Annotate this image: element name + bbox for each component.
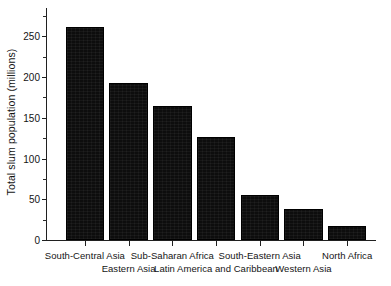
y-tick-mark [42,199,47,200]
y-minor-tick-mark [43,179,47,180]
y-tick-mark [42,77,47,78]
y-minor-tick-mark [43,97,47,98]
y-tick-label: 200 [23,72,40,83]
x-axis-line [46,240,376,241]
x-tick-label: Western Asia [275,263,331,274]
y-axis-line [46,8,47,241]
x-tick-label: South-Central Asia [45,250,125,261]
y-tick-mark [42,159,47,160]
y-minor-tick-mark [43,220,47,221]
y-tick-mark [42,240,47,241]
y-axis-title: Total slum population (millions) [0,0,22,244]
bar-chart: Total slum population (millions) 0501001… [0,0,391,286]
bar [241,195,279,240]
x-tick-label: Sub-Saharan Africa [131,250,214,261]
y-tick-mark [42,118,47,119]
bar [109,83,147,240]
bar [284,209,322,240]
y-tick-label: 250 [23,31,40,42]
y-tick-mark [42,36,47,37]
plot-area: 050100150200250 [46,8,376,241]
x-tick-label: Eastern Asia [102,263,156,274]
bar [66,27,104,240]
x-tick-label: North Africa [322,250,372,261]
y-tick-label: 100 [23,153,40,164]
y-minor-tick-mark [43,16,47,17]
y-tick-label: 150 [23,112,40,123]
x-tick-label: Latin America and Caribbean [154,263,278,274]
y-minor-tick-mark [43,57,47,58]
x-tick-label: South-Eastern Asia [219,250,301,261]
bar [153,106,191,240]
x-axis-labels: South-Central AsiaEastern AsiaSub-Sahara… [0,244,391,286]
y-minor-tick-mark [43,138,47,139]
y-axis-title-text: Total slum population (millions) [5,49,17,196]
y-tick-label: 50 [29,194,40,205]
bar [328,226,366,240]
bar [197,137,235,240]
